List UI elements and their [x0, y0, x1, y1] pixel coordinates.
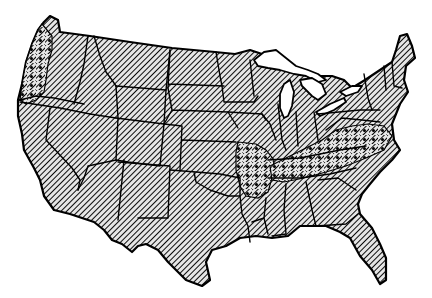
us-map — [0, 0, 432, 298]
map-svg — [0, 0, 432, 298]
